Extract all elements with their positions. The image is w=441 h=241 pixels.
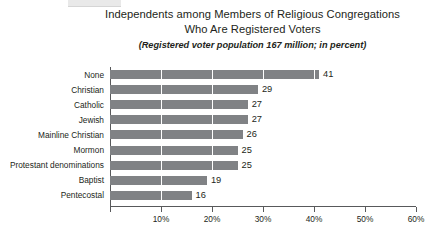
bar-row: 29 — [110, 85, 416, 94]
bar-value-label: 27 — [252, 114, 262, 125]
x-axis-tick — [365, 207, 366, 212]
bar-value-label: 19 — [211, 175, 221, 186]
gridline — [161, 67, 162, 206]
bar-value-label: 29 — [262, 84, 272, 95]
category-label: Christian — [0, 86, 104, 95]
chart-figure: Independents among Members of Religious … — [0, 0, 441, 241]
gridline — [314, 67, 315, 206]
bar-value-label: 16 — [196, 190, 206, 201]
chart-subtitle: (Registered voter population 167 million… — [70, 39, 435, 52]
bar — [110, 70, 319, 79]
x-axis-tick — [110, 207, 111, 212]
chart-axes: 412927272625251916 10%20%30%40%50%60% — [110, 62, 416, 210]
category-label: Mainline Christian — [0, 131, 104, 140]
category-label: Protestant denominations — [0, 161, 104, 170]
x-axis-tick-label: 60% — [396, 214, 436, 224]
bar — [110, 146, 238, 155]
x-axis-tick-label: 30% — [243, 214, 283, 224]
category-axis-labels: NoneChristianCatholicJewishMainline Chri… — [0, 62, 104, 207]
x-axis-tick — [314, 207, 315, 212]
gridline — [365, 67, 366, 206]
bar-value-label: 25 — [242, 145, 252, 156]
x-axis-tick-label: 50% — [345, 214, 385, 224]
header-accent-bar — [68, 0, 121, 7]
x-axis-tick — [161, 207, 162, 212]
x-axis-tick — [263, 207, 264, 212]
bar — [110, 191, 192, 200]
category-label: Pentecostal — [0, 191, 104, 200]
category-label: Baptist — [0, 176, 104, 185]
category-label: Jewish — [0, 116, 104, 125]
x-axis-tick — [212, 207, 213, 212]
chart-title-line-1: Independents among Members of Religious … — [70, 7, 435, 22]
category-label: None — [0, 71, 104, 80]
plot-area: NoneChristianCatholicJewishMainline Chri… — [0, 62, 441, 241]
chart-title-block: Independents among Members of Religious … — [70, 7, 435, 52]
bar — [110, 85, 258, 94]
bar — [110, 161, 238, 170]
gridline — [416, 67, 417, 206]
x-axis-tick-label: 10% — [141, 214, 181, 224]
bar-value-label: 26 — [247, 129, 257, 140]
category-label: Mormon — [0, 146, 104, 155]
chart-title-line-2: Who Are Registered Voters — [70, 22, 435, 37]
x-axis-tick-label: 40% — [294, 214, 334, 224]
bar — [110, 176, 207, 185]
x-axis-tick — [416, 207, 417, 212]
category-label: Catholic — [0, 101, 104, 110]
bar-value-label: 27 — [252, 99, 262, 110]
bar-value-label: 41 — [323, 69, 333, 80]
bar — [110, 100, 248, 109]
bar — [110, 130, 243, 139]
bar-value-label: 25 — [242, 160, 252, 171]
x-axis-tick-label: 20% — [192, 214, 232, 224]
bar — [110, 115, 248, 124]
